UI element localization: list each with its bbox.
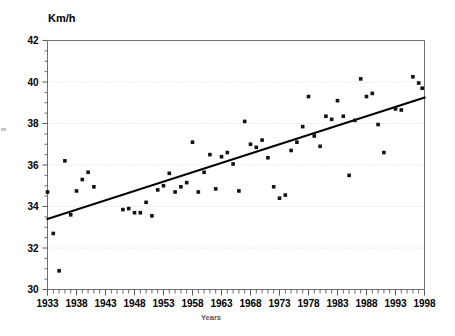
data-point (295, 140, 299, 144)
data-point (208, 153, 212, 157)
data-point (133, 211, 137, 215)
trend-line (48, 98, 425, 219)
y-tick-label: 36 (27, 160, 39, 171)
x-axis-title: Years (201, 313, 221, 322)
data-points (46, 75, 424, 273)
data-point (127, 207, 131, 211)
data-point (57, 269, 61, 273)
y-axis-title: Km/h (48, 12, 76, 24)
data-point (86, 170, 90, 174)
data-point (336, 99, 340, 103)
data-point (353, 119, 357, 123)
x-tick-label: 1958 (181, 298, 204, 309)
data-point (382, 151, 386, 155)
x-tick-label: 1953 (152, 298, 175, 309)
scan-artifact-mark (1, 128, 6, 131)
data-point (226, 151, 230, 155)
gridlines (48, 82, 425, 248)
x-tick-label: 1973 (268, 298, 291, 309)
y-tick-label: 30 (27, 284, 39, 295)
scatter-plot-svg: Km/h 30323436384042 19331938194319481953… (0, 0, 455, 336)
data-point (162, 184, 166, 188)
data-point (411, 75, 415, 79)
data-point (318, 145, 322, 149)
y-tick-label: 42 (27, 35, 39, 46)
data-point (260, 138, 264, 142)
data-point (168, 172, 172, 176)
data-point (324, 114, 328, 118)
data-point (371, 92, 375, 96)
x-tick-label: 1998 (413, 298, 436, 309)
data-point (52, 232, 56, 236)
data-point (63, 159, 67, 163)
x-tick-label: 1968 (239, 298, 262, 309)
data-point (400, 108, 404, 112)
data-point (420, 86, 424, 90)
x-tick-label: 1943 (94, 298, 117, 309)
data-point (197, 190, 201, 194)
data-point (144, 201, 148, 205)
data-point (249, 142, 253, 146)
data-point (342, 114, 346, 118)
data-point (150, 214, 154, 218)
data-point (365, 95, 369, 99)
data-point (231, 162, 235, 166)
chart-container: Km/h 30323436384042 19331938194319481953… (0, 0, 455, 336)
x-tick-label: 1988 (355, 298, 378, 309)
data-point (307, 95, 311, 99)
y-tick-label: 34 (27, 201, 39, 212)
data-point (301, 125, 305, 129)
data-point (92, 185, 96, 189)
data-point (255, 146, 259, 150)
x-tick-label: 1963 (210, 298, 233, 309)
data-point (330, 118, 334, 122)
data-point (359, 77, 363, 81)
data-point (81, 178, 85, 182)
data-point (284, 193, 288, 197)
trend-line-segment (48, 98, 425, 219)
x-tick-label: 1933 (36, 298, 59, 309)
data-point (191, 140, 195, 144)
y-axis-ticks: 30323436384042 (27, 35, 47, 295)
data-point (202, 170, 206, 174)
data-point (237, 189, 241, 193)
x-axis-ticks: 1933193819431948195319581963196819731978… (36, 290, 436, 309)
data-point (185, 181, 189, 185)
y-tick-label: 32 (27, 243, 39, 254)
y-tick-label: 38 (27, 118, 39, 129)
data-point (214, 187, 218, 191)
data-point (376, 123, 380, 127)
data-point (417, 81, 421, 85)
data-point (266, 156, 270, 160)
data-point (156, 188, 160, 192)
x-tick-label: 1978 (297, 298, 320, 309)
data-point (289, 149, 293, 153)
data-point (173, 190, 177, 194)
data-point (278, 196, 282, 200)
data-point (75, 189, 79, 193)
data-point (243, 120, 247, 124)
data-point (272, 185, 276, 189)
data-point (179, 185, 183, 189)
x-tick-label: 1948 (123, 298, 146, 309)
data-point (69, 213, 73, 217)
data-point (347, 174, 351, 178)
data-point (220, 155, 224, 159)
x-tick-label: 1993 (384, 298, 407, 309)
data-point (139, 211, 143, 215)
y-tick-label: 40 (27, 77, 39, 88)
data-point (394, 107, 398, 111)
x-tick-label: 1938 (65, 298, 88, 309)
x-tick-label: 1983 (326, 298, 349, 309)
data-point (121, 208, 125, 212)
data-point (46, 190, 50, 194)
data-point (313, 134, 317, 138)
